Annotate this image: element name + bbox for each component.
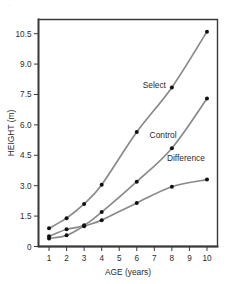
x-axis-tick-label: 10 <box>202 254 212 263</box>
series-data-point-markers <box>47 30 209 241</box>
y-axis-tick-label: 9.0 <box>20 60 32 69</box>
series-curves <box>49 32 207 239</box>
x-axis-tick-label: 7 <box>152 254 157 263</box>
x-axis-tick-label: 9 <box>187 254 192 263</box>
data-point-difference-age-10 <box>205 178 209 182</box>
data-point-control-age-2 <box>65 227 69 231</box>
y-axis-tick-label: 10.5 <box>16 30 32 39</box>
x-axis-tick-label: 8 <box>170 254 175 263</box>
height-vs-age-line-chart: 01.53.04.56.07.59.010.5 12345678910 HEIG… <box>0 0 234 284</box>
y-axis-tick-label: 1.5 <box>20 212 32 221</box>
data-point-select-age-6 <box>135 130 139 134</box>
x-axis-tick-labels: 12345678910 <box>47 254 212 263</box>
data-point-difference-age-2 <box>65 233 69 237</box>
data-point-select-age-4 <box>100 183 104 187</box>
series-label-difference: Difference <box>167 153 205 163</box>
data-point-select-age-10 <box>205 30 209 34</box>
data-point-difference-age-1 <box>47 236 51 240</box>
y-axis-tick-label: 3.0 <box>20 182 32 191</box>
y-axis-tick-labels: 01.53.04.56.07.59.010.5 <box>16 30 32 252</box>
x-axis-tick-label: 5 <box>117 254 122 263</box>
data-point-control-age-10 <box>205 97 209 101</box>
x-axis-tick-label: 2 <box>64 254 69 263</box>
x-axis-tick-label: 6 <box>134 254 139 263</box>
series-line-select <box>49 32 207 229</box>
series-line-control <box>49 99 207 237</box>
x-axis-tick-label: 3 <box>82 254 87 263</box>
data-point-select-age-3 <box>82 202 86 206</box>
y-axis-title: HEIGHT (m) <box>6 110 16 157</box>
axis-frame <box>39 20 218 247</box>
x-axis-tick-label: 1 <box>47 254 52 263</box>
x-axis-tick-label: 4 <box>99 254 104 263</box>
series-inline-labels: SelectControlDifference <box>143 80 206 163</box>
data-point-difference-age-3 <box>82 224 86 228</box>
data-point-select-age-2 <box>65 216 69 220</box>
y-axis-tick-label: 6.0 <box>20 121 32 130</box>
y-axis-tick-label: 4.5 <box>20 151 32 160</box>
series-label-control: Control <box>150 130 177 140</box>
data-point-control-age-6 <box>135 180 139 184</box>
data-point-control-age-8 <box>170 146 174 150</box>
data-point-control-age-4 <box>100 210 104 214</box>
data-point-select-age-1 <box>47 226 51 230</box>
y-axis-tick-label: 7.5 <box>20 90 32 99</box>
y-axis-tick-label: 0 <box>27 243 32 252</box>
data-point-difference-age-4 <box>100 218 104 222</box>
chart-container: · 01.53.04.56.07.59.010.5 12345678910 HE… <box>0 0 234 284</box>
data-point-difference-age-6 <box>135 201 139 205</box>
x-axis-title: AGE (years) <box>105 267 151 277</box>
series-label-select: Select <box>143 80 167 90</box>
data-point-select-age-8 <box>170 85 174 89</box>
data-point-difference-age-8 <box>170 185 174 189</box>
